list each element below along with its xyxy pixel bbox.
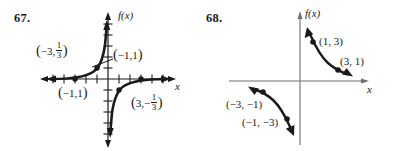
y-axis-label-67: f(x) — [118, 9, 133, 21]
point-label-1-3-68: (1, 3) — [319, 35, 343, 47]
point-label-neg3-neg1-68: (−3, −1) — [226, 98, 262, 110]
figure-67: 67. — [0, 0, 197, 151]
point-label-neg3-one-third-67: (−3,13) — [36, 41, 68, 61]
point-label-neg1-1-upper-67: (−1,1) — [113, 49, 143, 61]
x-axis-68 — [229, 78, 369, 83]
x-axis-label-67: x — [175, 80, 180, 92]
y-axis-label-68: f(x) — [305, 7, 320, 19]
point-label-3-1-68: (3, 1) — [340, 55, 364, 67]
graph-67-plot — [0, 0, 197, 151]
point-label-neg1-1-lower-67: (−1,1) — [58, 87, 88, 99]
point-label-neg1-neg3-68: (−1, −3) — [242, 116, 278, 128]
curve-68-lower-left-branch — [248, 87, 294, 137]
figure-68: 68. f(x) — [197, 0, 394, 151]
point-label-3-neg-one-third-67: (3,−13) — [131, 93, 163, 113]
y-axis-68 — [298, 11, 303, 145]
x-axis-label-68: x — [367, 83, 372, 95]
graph-68-plot — [197, 0, 394, 151]
